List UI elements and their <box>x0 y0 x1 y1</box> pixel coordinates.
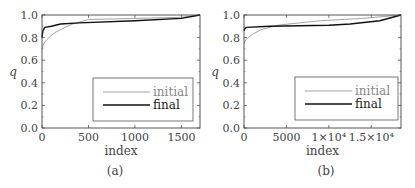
x-tick-label: 1500 <box>167 131 195 144</box>
panel-caption: (b) <box>317 164 334 178</box>
y-tick-label: 0.8 <box>21 32 39 45</box>
legend-label-final: final <box>355 97 382 111</box>
y-tick-label: 1.0 <box>223 9 241 22</box>
y-tick-label: 0.0 <box>21 122 39 135</box>
y-tick-label: 0.0 <box>223 122 241 135</box>
legend-label-final: final <box>153 98 180 112</box>
ticks: 0.00.20.40.60.81.0050010001500 <box>21 9 201 144</box>
x-tick-label: 1.5×10⁴ <box>349 131 395 144</box>
y-axis-label: q <box>211 65 219 79</box>
x-tick-label: 1×10⁴ <box>312 131 347 144</box>
x-tick-label: 1000 <box>121 131 149 144</box>
series-initial <box>244 15 401 43</box>
y-tick-label: 0.2 <box>21 99 39 112</box>
x-tick-label: 0 <box>39 131 46 144</box>
legend-label-initial: initial <box>355 84 390 98</box>
x-axis-label: index <box>306 144 339 158</box>
series-initial <box>42 15 200 49</box>
y-tick-label: 1.0 <box>21 9 39 22</box>
ticks: 0.00.20.40.60.81.0050001×10⁴1.5×10⁴ <box>223 9 402 144</box>
x-tick-label: 500 <box>78 131 99 144</box>
legend-label-initial: initial <box>153 85 188 99</box>
y-tick-label: 0.6 <box>21 54 39 67</box>
y-tick-label: 0.4 <box>21 77 39 90</box>
panel-b: 0.00.20.40.60.81.0050001×10⁴1.5×10⁴initi… <box>211 9 401 178</box>
figure: 0.00.20.40.60.81.0050010001500initialfin… <box>0 0 415 188</box>
y-tick-label: 0.2 <box>223 99 241 112</box>
panel-a: 0.00.20.40.60.81.0050010001500initialfin… <box>9 9 200 178</box>
y-tick-label: 0.6 <box>223 54 241 67</box>
legend: initialfinal <box>295 77 398 120</box>
x-tick-label: 5000 <box>272 131 300 144</box>
y-tick-label: 0.4 <box>223 77 241 90</box>
legend: initialfinal <box>93 78 193 121</box>
y-axis-label: q <box>9 65 17 79</box>
x-axis-label: index <box>104 144 137 158</box>
panel-caption: (a) <box>107 164 124 178</box>
y-tick-label: 0.8 <box>223 32 241 45</box>
x-tick-label: 0 <box>241 131 248 144</box>
